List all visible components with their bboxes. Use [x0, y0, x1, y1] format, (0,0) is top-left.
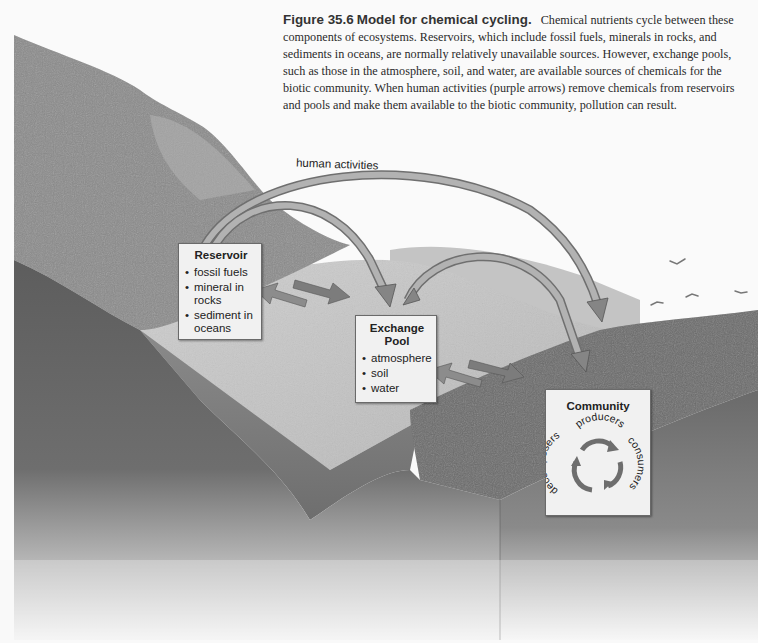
- figure-caption: Figure 35.6 Model for chemical cycling. …: [283, 11, 745, 114]
- arrow-decomposers-to-producers: [574, 462, 592, 490]
- exchange-pool-list: atmosphere soil water: [362, 352, 432, 395]
- list-item: water: [362, 382, 432, 395]
- list-item: fossil fuels: [185, 266, 257, 279]
- exchange-pool-box: Exchange Pool atmosphere soil water: [355, 315, 437, 403]
- list-item: mineral in rocks: [185, 281, 257, 307]
- arrow-producers-to-consumers: [582, 441, 612, 450]
- list-item: atmosphere: [362, 352, 432, 365]
- svg-text:producers: producers: [573, 410, 628, 430]
- producers-label: producers: [573, 410, 628, 430]
- list-item: sediment in oceans: [185, 309, 257, 335]
- decomposers-label: decomposers: [546, 429, 561, 498]
- bird-icons: [651, 259, 747, 305]
- reservoir-box: Reservoir fossil fuels mineral in rocks …: [178, 243, 262, 340]
- exchange-pool-title: Exchange Pool: [362, 322, 432, 348]
- svg-text:decomposers: decomposers: [546, 429, 561, 498]
- svg-text:consumers: consumers: [626, 434, 648, 494]
- figure-number: Figure 35.6: [283, 12, 354, 27]
- nutrient-cycle-diagram: producers consumers decomposers: [546, 390, 650, 515]
- figure-caption-text: Chemical nutrients cycle between these c…: [283, 13, 734, 112]
- list-item: soil: [362, 367, 432, 380]
- community-box: Community producers consumers decomposer…: [545, 389, 651, 516]
- reservoir-list: fossil fuels mineral in rocks sediment i…: [185, 266, 257, 335]
- consumers-label: consumers: [626, 434, 648, 494]
- reservoir-title: Reservoir: [185, 249, 257, 262]
- figure-title: Model for chemical cycling.: [357, 12, 532, 27]
